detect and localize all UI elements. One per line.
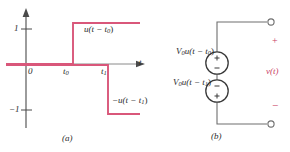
curve-label-0-prefix: u(t − t <box>84 24 107 34</box>
terminal-negative <box>268 121 274 127</box>
curve-label-1-suffix: ) <box>144 95 147 105</box>
curve-label-0-suffix: ) <box>110 24 113 34</box>
origin-label: 0 <box>28 67 33 76</box>
curve-label-1-prefix: −u(t − t <box>112 95 141 105</box>
source-1-label: V0u(t − t0) <box>176 47 214 57</box>
y-tick-label-1: 1 <box>14 24 19 33</box>
output-polarity-plus: + <box>272 36 278 46</box>
x-tick-t0-sub: 0 <box>66 69 69 76</box>
x-tick-t1-sub: 1 <box>104 69 107 76</box>
curve-label-neg-u-t-minus-t1: −u(t − t1) <box>112 96 147 106</box>
wire-bottom <box>217 98 267 124</box>
terminal-positive <box>268 19 274 25</box>
x-tick-label-t1: t1 <box>101 67 107 77</box>
figure-container: 1 −1 0 t0 t1 t u(t − t0) −u(t − t1) <box>0 0 290 152</box>
source-2-label: V0u(t − t1) <box>173 78 211 88</box>
source-1-label-rest: u(t − t <box>185 46 208 56</box>
source-2-label-rest: u(t − t <box>182 77 205 87</box>
panel-a-waveform-plot <box>0 0 150 152</box>
caption-panel-b: (b) <box>211 131 222 141</box>
curve-label-u-t-minus-t0: u(t − t0) <box>84 25 113 35</box>
caption-panel-a: (a) <box>62 133 73 143</box>
output-voltage-label: v(t) <box>266 67 279 76</box>
waveform-svg <box>0 0 150 152</box>
x-tick-label-t0: t0 <box>63 67 69 77</box>
panel-b-circuit-diagram <box>150 0 290 152</box>
output-polarity-minus: − <box>272 100 278 111</box>
source-2-label-suffix: ) <box>208 77 211 87</box>
source-1-label-suffix: ) <box>211 46 214 56</box>
x-axis-label: t <box>139 58 142 67</box>
y-tick-label-neg1: −1 <box>9 105 20 114</box>
circuit-svg <box>150 0 290 152</box>
wire-top <box>217 22 267 56</box>
